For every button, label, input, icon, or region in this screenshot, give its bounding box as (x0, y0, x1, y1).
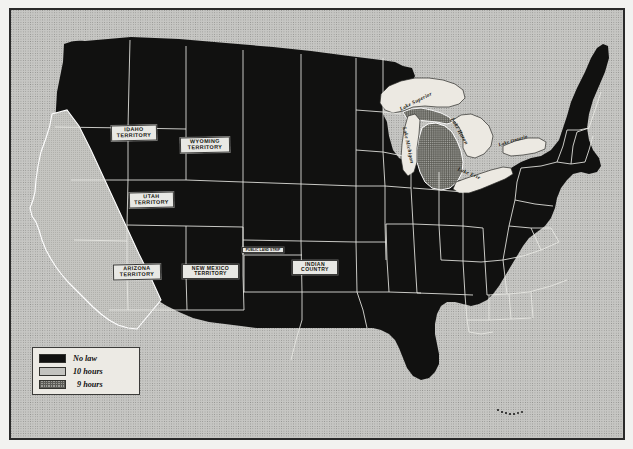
map-plate-frame: IDAHO TERRITORY WYOMING TERRITORY UTAH T… (9, 8, 625, 440)
legend-label-9-hours: 9 hours (77, 380, 103, 389)
legend-row-10-hours: 10 hours (39, 365, 134, 378)
michigan-lower-peninsula (417, 123, 463, 190)
legend-swatch-10-hours (39, 367, 66, 376)
label-utah-territory: UTAH TERRITORY (129, 192, 174, 208)
label-indian-country: INDIAN COUNTRY (292, 260, 338, 275)
label-wyoming-territory: WYOMING TERRITORY (180, 136, 230, 153)
legend-swatch-no-law (39, 354, 66, 363)
label-arizona-territory: ARIZONA TERRITORY (113, 263, 161, 280)
florida-keys (497, 409, 523, 415)
map-legend: No law 10 hours 9 hours (32, 347, 140, 395)
legend-row-no-law: No law (39, 352, 134, 365)
label-idaho-territory: IDAHO TERRITORY (111, 125, 157, 141)
landmass-no-law (55, 37, 609, 380)
legend-label-10-hours: 10 hours (73, 367, 103, 376)
legend-label-no-law: No law (73, 354, 97, 363)
map-page: IDAHO TERRITORY WYOMING TERRITORY UTAH T… (0, 0, 633, 449)
label-public-land-strip: PUBLIC LAND STRIP (242, 247, 284, 253)
us-landmass-fill (55, 37, 609, 380)
legend-row-9-hours: 9 hours (39, 378, 134, 391)
label-new-mexico-territory: NEW MEXICO TERRITORY (182, 264, 239, 279)
legend-swatch-9-hours (39, 380, 66, 389)
lake-ontario-water (503, 138, 546, 156)
